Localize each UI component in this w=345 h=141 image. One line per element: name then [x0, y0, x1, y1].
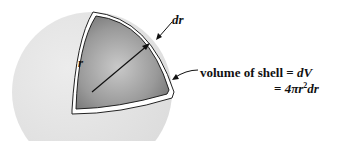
core-wedge	[76, 16, 169, 109]
equals-sign-2: =	[274, 81, 281, 96]
volume-equation-line2: = 4πr2dr	[274, 81, 319, 97]
dV-symbol: dV	[297, 65, 312, 80]
dr-symbol: dr	[307, 81, 319, 96]
volume-arrowhead	[172, 74, 179, 80]
equals-sign: =	[286, 65, 293, 80]
volume-text: volume of shell	[200, 65, 283, 80]
radius-label: r	[78, 55, 83, 71]
volume-equation-line1: volume of shell = dV	[200, 65, 312, 81]
thickness-label: dr	[172, 12, 184, 28]
four-pi: 4π	[285, 81, 299, 96]
spherical-shell-diagram: r dr volume of shell = dV = 4πr2dr	[0, 0, 345, 141]
